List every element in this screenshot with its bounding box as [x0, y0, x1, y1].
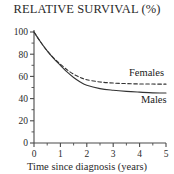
x-axis-tick-label: 3 [111, 149, 116, 159]
y-axis-tick-label: 40 [19, 94, 29, 104]
x-axis-tick-label: 0 [32, 149, 37, 159]
series-label-females: Females [129, 67, 164, 78]
chart-plot-area: 020406080100012345MalesFemales [0, 0, 174, 174]
y-axis-tick-label: 0 [23, 138, 28, 148]
y-axis-tick-label: 20 [19, 116, 29, 126]
x-axis-title: Time since diagnosis (years) [0, 161, 174, 172]
chart-figure: RELATIVE SURVIVAL (%) 020406080100012345… [0, 0, 174, 174]
y-axis-tick-label: 100 [14, 27, 29, 37]
x-axis-tick-label: 2 [84, 149, 89, 159]
x-axis-tick-label: 5 [164, 149, 169, 159]
y-axis-tick-label: 80 [19, 50, 29, 60]
series-label-males: Males [141, 94, 167, 105]
y-axis-tick-label: 60 [19, 72, 29, 82]
x-axis-tick-label: 1 [58, 149, 63, 159]
x-axis-tick-label: 4 [137, 149, 142, 159]
